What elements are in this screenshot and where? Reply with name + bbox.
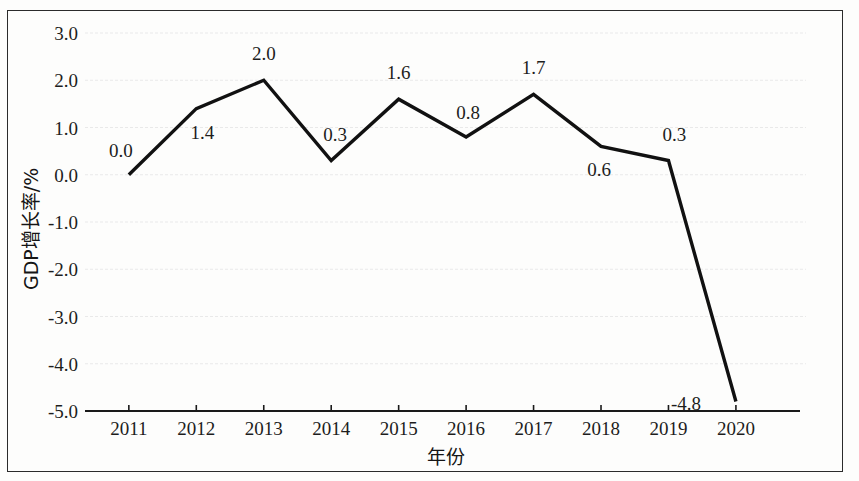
- data-point-label: 1.7: [522, 57, 546, 78]
- x-tick-label: 2013: [245, 418, 283, 439]
- x-tick-labels-group: 2011201220132014201520162017201820192020: [110, 418, 755, 439]
- y-tick-label: -2.0: [48, 259, 78, 280]
- data-point-label: 0.0: [109, 140, 133, 161]
- y-tick-label: -1.0: [48, 212, 78, 233]
- x-tick-label: 2017: [515, 418, 553, 439]
- series-group: [129, 80, 736, 401]
- data-point-label: -4.8: [671, 393, 701, 414]
- data-labels-group: 0.01.42.00.31.60.81.70.60.3-4.8: [109, 43, 701, 413]
- data-point-label: 0.8: [456, 102, 480, 123]
- data-point-label: 2.0: [252, 43, 276, 64]
- x-tick-label: 2018: [582, 418, 620, 439]
- y-tick-label: 1.0: [54, 118, 78, 139]
- x-tick-label: 2014: [312, 418, 351, 439]
- x-tick-label: 2019: [649, 418, 687, 439]
- y-tick-label: -5.0: [48, 401, 78, 422]
- data-point-label: 1.4: [190, 122, 214, 143]
- data-point-label: 0.3: [663, 124, 687, 145]
- chart-page: 3.02.01.00.0-1.0-2.0-3.0-4.0-5.0 2011201…: [0, 0, 859, 481]
- x-tick-label: 2015: [380, 418, 418, 439]
- y-tick-label: 3.0: [54, 23, 78, 44]
- y-tick-label: 0.0: [54, 165, 78, 186]
- x-tick-label: 2016: [447, 418, 485, 439]
- x-axis-title: 年份: [427, 446, 465, 468]
- series-line-gdp-growth: [129, 80, 736, 401]
- x-tick-label: 2011: [110, 418, 147, 439]
- x-tick-label: 2012: [177, 418, 215, 439]
- gridlines-group: [85, 33, 806, 364]
- y-tick-label: -3.0: [48, 307, 78, 328]
- x-tick-label: 2020: [717, 418, 755, 439]
- data-point-label: 1.6: [387, 62, 411, 83]
- line-chart: 3.02.01.00.0-1.0-2.0-3.0-4.0-5.0 2011201…: [0, 0, 859, 481]
- data-point-label: 0.6: [587, 159, 611, 180]
- data-point-label: 0.3: [323, 124, 347, 145]
- y-axis-title: GDP增长率/%: [20, 168, 42, 290]
- y-tick-label: -4.0: [48, 354, 78, 375]
- y-tick-labels-group: 3.02.01.00.0-1.0-2.0-3.0-4.0-5.0: [48, 23, 78, 422]
- y-tick-label: 2.0: [54, 70, 78, 91]
